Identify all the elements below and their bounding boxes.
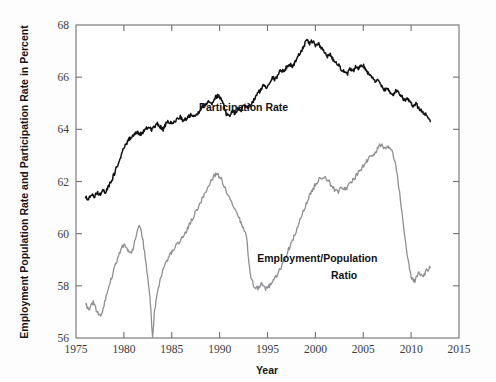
y-tick-label: 60: [58, 228, 70, 240]
x-tick-label: 1995: [256, 343, 279, 355]
chart-canvas: 1975198019851990199520002005201020155658…: [0, 0, 496, 382]
x-axis-title: Year: [256, 364, 278, 376]
y-tick-label: 58: [58, 280, 70, 292]
y-tick-label: 64: [58, 123, 70, 135]
x-tick-label: 2015: [448, 343, 471, 355]
plot-frame: [76, 25, 459, 338]
x-tick-label: 1975: [65, 343, 88, 355]
y-tick-label: 66: [58, 71, 70, 83]
y-tick-label: 56: [58, 332, 70, 344]
chart-figure: 1975198019851990199520002005201020155658…: [0, 0, 496, 382]
x-tick-label: 1985: [160, 343, 183, 355]
y-tick-label: 62: [58, 176, 70, 188]
x-tick-label: 1980: [112, 343, 135, 355]
annotation-2: Employment/Population: [257, 252, 377, 264]
y-axis-title: Employment Population Rate and Participa…: [17, 24, 31, 340]
y-tick-label: 68: [58, 19, 70, 31]
x-tick-label: 1990: [208, 343, 231, 355]
y-axis-title-container: Employment Population Rate and Participa…: [0, 0, 46, 382]
x-tick-label: 2005: [352, 343, 375, 355]
x-tick-label: 2000: [304, 343, 327, 355]
annotation-3: Ratio: [331, 269, 357, 281]
plot-background: [76, 25, 459, 338]
annotation-1: Participation Rate: [199, 101, 288, 113]
x-tick-label: 2010: [400, 343, 423, 355]
